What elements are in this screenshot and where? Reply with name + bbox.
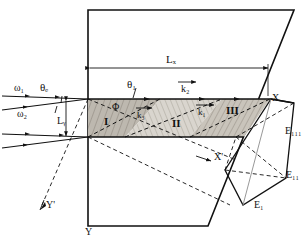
label-k1: k₁ [198,107,206,117]
prism-hidden-edge-2 [225,170,286,178]
theta-E-tick-lower [55,106,57,113]
beam-omega1-upper [2,96,88,99]
label-field-EII: E₁₁ [286,169,299,180]
Lx-dimension [90,64,268,96]
projection-bottom [88,137,230,205]
label-Lx: Lₓ [166,53,177,65]
label-axis-X: X [272,92,280,103]
label-region-III: III [226,104,239,116]
incoming-beams [2,94,88,148]
label-Ly: Lᵧ [57,115,66,127]
optical-geometry-figure: ω₁ ω₂ θₑ Lᵧ Lₓ θ₁ Φ k₂ k₁ k₃ I II III X … [0,0,306,244]
label-field-EI: E₁ [254,199,264,210]
label-k2: k₂ [181,83,190,94]
beam-omega2-upper [2,99,88,110]
label-k3: k₃ [137,110,145,120]
label-omega1: ω₁ [14,82,24,93]
label-axis-X-prime: X' [214,151,223,162]
diagram-canvas: ω₁ ω₂ θₑ Lᵧ Lₓ θ₁ Φ k₂ k₁ k₃ I II III X … [0,0,306,244]
label-theta-E: θₑ [40,81,48,93]
label-region-II: II [172,117,181,129]
beam-omega2-lower [2,137,88,148]
label-region-I: I [104,115,108,127]
label-axis-Y-prime: Y' [46,199,55,210]
label-theta-1: θ₁ [127,78,136,90]
label-omega2: ω₂ [17,108,27,119]
beam-omega1-lower [2,134,88,137]
prism-hidden-edge-4 [225,137,236,170]
x-prime-arrow [196,156,211,161]
label-axis-Y: Y [85,226,92,237]
label-phi: Φ [112,101,119,112]
prism-hidden-edge-3 [236,137,286,178]
label-field-EIII: E₁₁₁ [285,125,302,136]
x-prime-pointer [196,156,211,161]
